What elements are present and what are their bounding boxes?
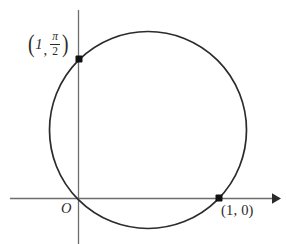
open-paren: ( (28, 33, 34, 56)
point-label-one-pi-over-two: ( 1 , π 2 ) (27, 31, 69, 57)
fraction-denominator: 2 (50, 45, 60, 58)
radius-value: 1 (35, 37, 43, 52)
point-marker-right (216, 195, 223, 202)
origin-label: O (61, 201, 71, 216)
fraction-numerator: π (50, 31, 60, 44)
polar-circle-figure: ( 1 , π 2 ) (1, 0) O (0, 0, 286, 244)
x-axis-arrowhead (272, 193, 281, 203)
point-label-one-zero: (1, 0) (221, 203, 254, 218)
point-marker-top (76, 56, 83, 63)
close-paren: ) (62, 33, 68, 56)
pi-over-two-fraction: π 2 (49, 31, 61, 57)
